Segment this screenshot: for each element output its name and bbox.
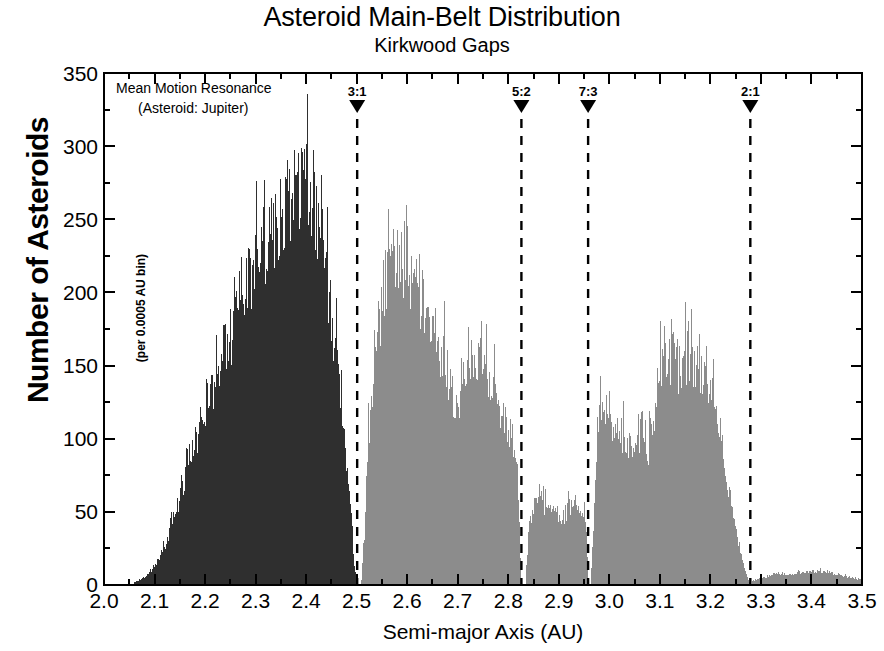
histogram-series-1 [361, 205, 521, 585]
resonance-triangle-2-1 [742, 100, 758, 113]
histogram-series-4 [752, 568, 863, 585]
plot-area [0, 0, 884, 651]
resonance-triangle-5-2 [513, 100, 529, 113]
resonance-triangle-3-1 [349, 100, 365, 113]
resonance-triangle-7-3 [580, 100, 596, 113]
chart-figure: Asteroid Main-Belt Distribution Kirkwood… [0, 0, 884, 651]
histogram-series-0 [134, 94, 357, 585]
histogram-series-3 [591, 302, 751, 585]
histogram-series-2 [525, 484, 589, 585]
